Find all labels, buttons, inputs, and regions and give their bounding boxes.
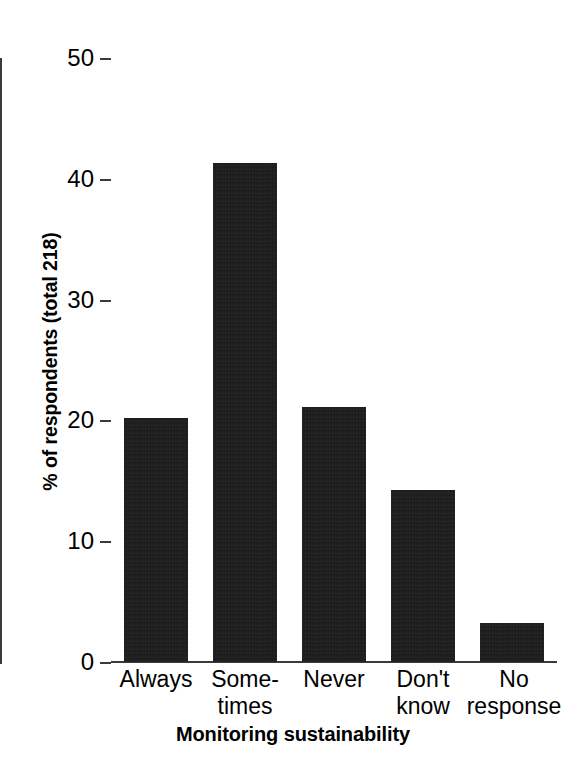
x-axis-title: Monitoring sustainability — [0, 723, 586, 746]
y-axis-line — [0, 58, 2, 664]
x-tick-label-no-response: No response — [452, 666, 576, 720]
y-tick-mark-50 — [100, 58, 111, 60]
y-axis-tick-labels: 50 40 30 20 10 0 — [32, 58, 94, 662]
bar-dont-know[interactable] — [391, 490, 455, 662]
y-tick-label-20: 20 — [34, 408, 94, 432]
bar-sometimes[interactable] — [213, 163, 277, 662]
y-tick-mark-0 — [100, 662, 111, 664]
x-axis-tick-labels: Always Some- times Never Don't know No r… — [111, 666, 557, 722]
bar-never[interactable] — [302, 407, 366, 662]
plot-area — [111, 58, 557, 662]
y-tick-mark-10 — [100, 541, 111, 543]
bar-no-response[interactable] — [480, 623, 544, 662]
y-tick-mark-30 — [100, 300, 111, 302]
y-tick-label-40: 40 — [34, 167, 94, 191]
y-tick-mark-20 — [100, 420, 111, 422]
y-tick-label-30: 30 — [34, 288, 94, 312]
y-tick-mark-40 — [100, 179, 111, 181]
bar-chart-figure: % of respondents (total 218) 50 40 30 20… — [0, 0, 586, 783]
y-tick-label-50: 50 — [34, 46, 94, 70]
bar-always[interactable] — [124, 418, 188, 662]
y-tick-label-0: 0 — [34, 650, 94, 674]
y-tick-label-10: 10 — [34, 529, 94, 553]
